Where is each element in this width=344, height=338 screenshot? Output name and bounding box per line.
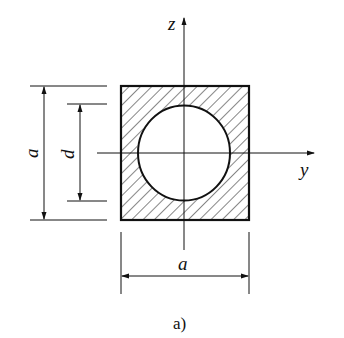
- outer-width-dimension: a: [121, 232, 249, 294]
- cross-section-diagram: y z a d a a): [0, 0, 344, 338]
- hole-diameter-label: d: [57, 149, 78, 159]
- outer-width-label: a: [178, 253, 188, 274]
- y-axis-label: y: [298, 159, 309, 180]
- z-axis-label: z: [167, 13, 176, 34]
- figure-caption: a): [173, 314, 186, 333]
- outer-height-label: a: [21, 149, 42, 159]
